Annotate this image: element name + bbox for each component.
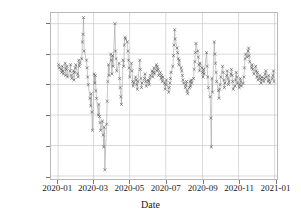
- x-tick-mark: [239, 180, 240, 184]
- y-tick-mark: [46, 54, 50, 55]
- x-tick-mark: [129, 180, 130, 184]
- x-tick-label: 2020-09: [188, 183, 218, 193]
- x-tick-label: 2020-11: [224, 183, 254, 193]
- y-tick-mark: [46, 23, 50, 24]
- x-tick-label: 2020-05: [114, 183, 144, 193]
- y-axis-label-wrap: Weekly log return: [0, 0, 20, 222]
- y-tick-mark: [46, 84, 50, 85]
- x-tick-label: 2020-07: [151, 183, 181, 193]
- x-tick-label: 2021-01: [261, 183, 291, 193]
- y-tick-mark: [46, 146, 50, 147]
- chart-figure: 0.40.20.0−0.2−0.4−0.6 2020-012020-032020…: [0, 0, 301, 222]
- y-tick-mark: [46, 177, 50, 178]
- plot-area: [50, 12, 278, 180]
- series-markers: [57, 16, 275, 171]
- x-tick-mark: [276, 180, 277, 184]
- y-tick-mark: [46, 115, 50, 116]
- x-tick-label: 2020-01: [42, 183, 72, 193]
- x-tick-mark: [203, 180, 204, 184]
- x-tick-mark: [57, 180, 58, 184]
- x-tick-mark: [93, 180, 94, 184]
- x-axis-label: Date: [0, 199, 301, 210]
- x-tick-label: 2020-03: [78, 183, 108, 193]
- data-series-layer: [51, 13, 277, 179]
- x-tick-mark: [166, 180, 167, 184]
